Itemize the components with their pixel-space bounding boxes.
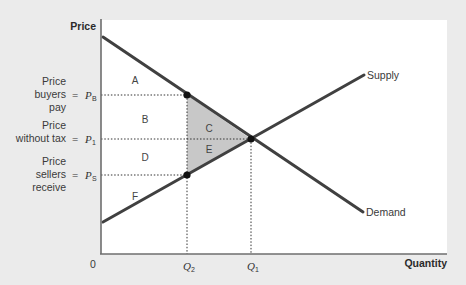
origin-label: 0 [90, 258, 96, 270]
no-tax-price-symbol: P [84, 133, 92, 145]
sellers-price-text-1: Price [42, 155, 66, 167]
no-tax-price-subscript: 1 [92, 139, 96, 146]
buyers-price-text-2: buyers [34, 88, 66, 100]
region-c-label: C [205, 123, 212, 134]
region-f-label: F [132, 191, 138, 202]
buyers-price-text-3: pay [49, 101, 67, 113]
q1-label: Q 1 [247, 260, 259, 273]
buyers-price-subscript: B [92, 95, 97, 102]
sellers-equals: = [72, 169, 78, 181]
q1-symbol: Q [247, 260, 255, 272]
buyers-price-point [183, 91, 190, 98]
supply-label: Supply [367, 69, 400, 81]
sellers-price-label: Price sellers receive = P S [32, 155, 97, 193]
region-d-label: D [141, 152, 148, 163]
region-b-label: B [142, 114, 149, 125]
tax-diagram: Price Quantity 0 Supply Demand Price buy… [0, 0, 466, 285]
q2-subscript: 2 [191, 266, 195, 273]
no-tax-equals: = [72, 133, 78, 145]
region-e-label: E [206, 144, 213, 155]
equilibrium-point [247, 135, 254, 142]
plot-area [101, 20, 447, 254]
demand-label: Demand [366, 206, 406, 218]
buyers-price-text-1: Price [42, 75, 66, 87]
no-tax-price-text-2: without tax [15, 132, 67, 144]
sellers-price-text-2: sellers [36, 168, 66, 180]
x-axis-label: Quantity [404, 257, 447, 269]
buyers-price-symbol: P [84, 89, 92, 101]
y-axis-label: Price [70, 20, 96, 32]
q2-symbol: Q [183, 260, 191, 272]
no-tax-price-text-1: Price [42, 119, 66, 131]
sellers-price-text-3: receive [32, 181, 66, 193]
region-a-label: A [132, 75, 139, 86]
buyers-equals: = [72, 89, 78, 101]
buyers-price-label: Price buyers pay = P B [34, 75, 97, 113]
sellers-price-point [183, 171, 190, 178]
no-tax-price-label: Price without tax = P 1 [15, 119, 96, 146]
sellers-price-symbol: P [84, 169, 92, 181]
q1-subscript: 1 [255, 266, 259, 273]
sellers-price-subscript: S [92, 175, 97, 182]
q2-label: Q 2 [183, 260, 195, 273]
